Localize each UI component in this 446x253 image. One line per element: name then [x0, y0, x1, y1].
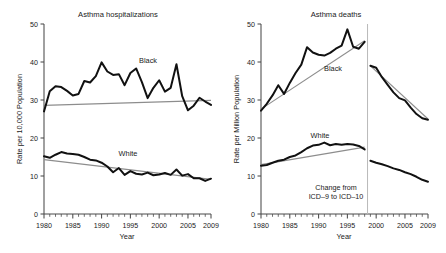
- chart-panel-asthma-hospitalizations: Asthma hospitalizations 01020304050 1980…: [0, 0, 223, 253]
- y-axis-title-right: Rate per Million Population: [232, 75, 241, 163]
- data-line-white-icd10-right: [370, 161, 428, 182]
- chart-panel-asthma-deaths: Asthma deaths 01020304050 19801985199019…: [223, 0, 446, 253]
- y-axis-title-left: Rate per 10,000 Population: [15, 74, 24, 164]
- y-tick-labels-left: 01020304050: [30, 21, 38, 219]
- x-tick-labels-right: 1980198519901995200020052009: [253, 222, 436, 230]
- x-tick-label: 1990: [311, 222, 327, 230]
- y-tick-label: 40: [247, 59, 255, 67]
- x-tick-labels-left: 1980198519901995200020052009: [36, 222, 219, 230]
- icd-change-note-line1: Change from: [315, 183, 357, 192]
- trend-line-black-icd9-right: [261, 41, 365, 109]
- data-line-white-icd9-right: [261, 143, 365, 166]
- figure-container: Asthma hospitalizations 01020304050 1980…: [0, 0, 446, 253]
- x-tick-label: 1980: [36, 222, 52, 230]
- x-ticks-left: [44, 214, 211, 219]
- y-tick-label: 30: [30, 97, 38, 105]
- panel-title-group-right: Asthma deaths: [311, 10, 362, 19]
- y-tick-label: 20: [247, 135, 255, 143]
- x-ticks-right: [261, 214, 428, 219]
- chart-svg-left: Asthma hospitalizations 01020304050 1980…: [0, 0, 223, 253]
- x-tick-label: 1980: [253, 222, 269, 230]
- panel-title-left: Asthma hospitalizations: [78, 10, 158, 19]
- x-tick-label: 1995: [122, 222, 138, 230]
- series-label-white-right: White: [311, 131, 330, 140]
- x-tick-label: 1985: [282, 222, 298, 230]
- y-tick-label: 0: [34, 211, 38, 219]
- y-tick-label: 0: [251, 211, 255, 219]
- y-tick-label: 50: [247, 21, 255, 29]
- chart-svg-right: Asthma deaths 01020304050 19801985199019…: [223, 0, 446, 253]
- x-tick-label: 2000: [151, 222, 167, 230]
- series-label-black-right: Black: [324, 64, 342, 73]
- plot-area-left: [44, 62, 211, 181]
- y-tick-label: 40: [30, 59, 38, 67]
- x-tick-label: 2009: [203, 222, 219, 230]
- x-tick-label: 2005: [397, 222, 413, 230]
- x-tick-label: 1990: [94, 222, 110, 230]
- y-tick-label: 50: [30, 21, 38, 29]
- series-label-black-left: Black: [139, 56, 157, 65]
- x-axis-title-left: Year: [120, 232, 135, 241]
- x-tick-label: 2000: [368, 222, 384, 230]
- x-tick-label: 2009: [420, 222, 436, 230]
- x-axis-title-right: Year: [337, 232, 352, 241]
- x-tick-label: 1995: [339, 222, 355, 230]
- icd-change-note-line2: ICD–9 to ICD–10: [309, 192, 364, 201]
- y-tick-label: 30: [247, 97, 255, 105]
- x-tick-label: 1985: [65, 222, 81, 230]
- x-tick-label: 2005: [180, 222, 196, 230]
- series-label-white-left: White: [119, 149, 138, 158]
- trend-line-white-left: [44, 160, 211, 180]
- panel-title-group-left: Asthma hospitalizations: [78, 10, 158, 19]
- y-tick-labels-right: 01020304050: [247, 21, 255, 219]
- y-tick-label: 10: [247, 173, 255, 181]
- panel-title-right: Asthma deaths: [311, 10, 362, 19]
- y-tick-label: 10: [30, 173, 38, 181]
- y-tick-label: 20: [30, 135, 38, 143]
